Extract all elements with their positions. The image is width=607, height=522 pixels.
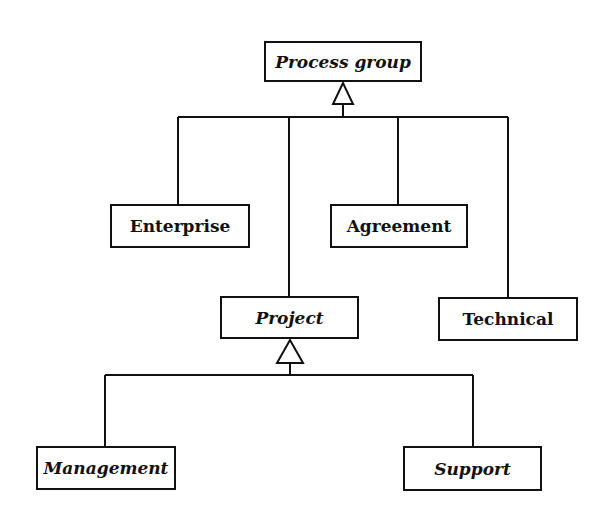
inheritance-triangle-icon [277, 340, 303, 363]
node-management: Management [36, 446, 176, 490]
node-process-group: Process group [264, 41, 422, 82]
node-support: Support [403, 446, 542, 491]
node-agreement: Agreement [330, 204, 468, 248]
node-project: Project [220, 296, 359, 339]
node-technical: Technical [438, 297, 578, 341]
node-enterprise: Enterprise [110, 204, 250, 248]
inheritance-triangle-icon [333, 83, 353, 104]
